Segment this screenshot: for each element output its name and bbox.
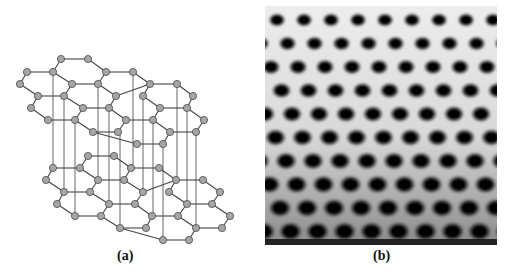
atom-node: [94, 80, 101, 87]
atom-node: [159, 236, 166, 243]
atom-node: [199, 176, 206, 183]
atom-node: [94, 176, 101, 183]
atom-node: [68, 80, 75, 87]
caption-b: (b): [373, 248, 390, 264]
atom-node: [142, 224, 149, 231]
caption-a: (a): [117, 248, 133, 264]
atom-node: [102, 68, 109, 75]
atom-node: [148, 212, 155, 219]
atom-node: [84, 55, 91, 62]
atom-node: [116, 224, 123, 231]
atom-node: [189, 92, 196, 99]
atom-node: [27, 104, 34, 111]
atom-node: [146, 80, 153, 87]
atom-node: [216, 188, 223, 195]
atom-node: [120, 176, 127, 183]
atom-node: [139, 92, 146, 99]
atom-node: [172, 176, 179, 183]
bilayer-lattice-diagram: [0, 0, 250, 250]
atom-node: [112, 92, 119, 99]
atom-node: [133, 140, 140, 147]
atom-node: [127, 164, 134, 171]
atom-node: [105, 200, 112, 207]
atom-node: [192, 224, 199, 231]
atom-node: [200, 116, 207, 123]
atom-node: [155, 164, 162, 171]
atom-node: [34, 92, 41, 99]
atom-node: [166, 128, 173, 135]
atom-node: [84, 152, 91, 159]
atom-node: [60, 92, 67, 99]
atom-node: [76, 164, 83, 171]
atom-node: [49, 68, 56, 75]
top-layer: [16, 55, 207, 147]
atom-node: [131, 200, 138, 207]
atom-node: [192, 128, 199, 135]
atom-node: [174, 212, 181, 219]
bottom-layer: [42, 152, 233, 243]
atom-node: [122, 116, 129, 123]
atom-node: [218, 224, 225, 231]
atom-node: [16, 80, 23, 87]
atom-node: [86, 188, 93, 195]
atom-node: [114, 128, 121, 135]
atom-node: [183, 104, 190, 111]
atom-node: [156, 104, 163, 111]
atom-node: [149, 116, 156, 123]
atomic-resolution-image: [265, 6, 497, 245]
atom-node: [183, 200, 190, 207]
panel-a-lattice-model: [0, 0, 250, 250]
atom-node: [44, 116, 51, 123]
atom-node: [71, 116, 78, 123]
atom-node: [53, 200, 60, 207]
atom-node: [129, 68, 136, 75]
atom-node: [23, 68, 30, 75]
atom-node: [159, 140, 166, 147]
atom-node: [97, 212, 104, 219]
atom-node: [105, 104, 112, 111]
atom-node: [110, 152, 117, 159]
atom-node: [89, 128, 96, 135]
panel-b-micrograph: [265, 6, 497, 245]
atom-node: [173, 80, 180, 87]
atom-node: [49, 164, 56, 171]
atom-node: [185, 236, 192, 243]
atom-node: [42, 176, 49, 183]
atom-node: [226, 212, 233, 219]
atom-node: [79, 104, 86, 111]
atom-node: [71, 212, 78, 219]
atom-node: [139, 188, 146, 195]
atom-node: [60, 188, 67, 195]
atom-node: [208, 200, 215, 207]
atom-node: [57, 55, 64, 62]
atom-node: [165, 188, 172, 195]
